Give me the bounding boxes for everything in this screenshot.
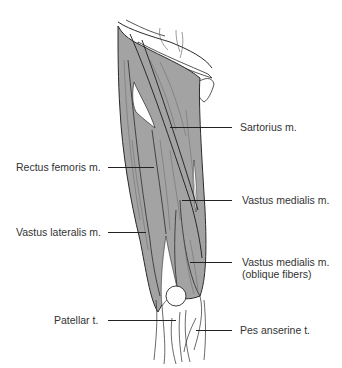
label-sartorius: Sartorius m. [240,121,297,133]
label-vastus-medialis-oblique-line2: (oblique fibers) [242,268,329,280]
leader-vastus-medialis [182,200,232,201]
leader-patellar-tendon [108,320,176,321]
thigh-muscle-illustration [0,0,342,368]
patella [166,286,186,306]
leader-rectus-femoris [108,167,154,168]
leader-pes-anserine [196,330,232,331]
leader-sartorius [170,127,232,128]
label-vastus-lateralis: Vastus lateralis m. [16,226,101,238]
leader-vastus-lateralis [108,232,146,233]
label-rectus-femoris: Rectus femoris m. [16,161,101,173]
label-pes-anserine: Pes anserine t. [240,324,310,336]
leader-vastus-medialis-oblique [190,262,232,263]
label-vastus-medialis-oblique-line1: Vastus medialis m. [242,256,329,268]
label-vastus-medialis-oblique: Vastus medialis m. (oblique fibers) [242,256,329,280]
label-patellar-tendon: Patellar t. [54,314,98,326]
label-vastus-medialis: Vastus medialis m. [242,194,329,206]
